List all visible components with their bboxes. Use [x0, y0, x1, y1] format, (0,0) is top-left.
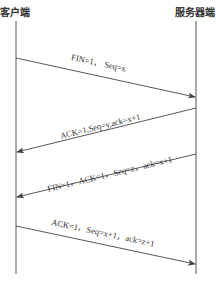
- sequence-diagram: [0, 0, 216, 283]
- message-arrow-2: [17, 108, 196, 152]
